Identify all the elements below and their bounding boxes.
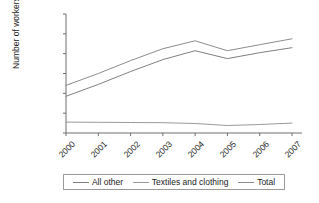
legend-line-swatch [73,182,89,183]
legend-label: Total [257,177,275,187]
plot-area [0,0,319,203]
axis-lines [66,14,302,133]
legend-item[interactable]: Textiles and clothing [133,177,229,187]
legend-label: All other [92,177,123,187]
legend-item[interactable]: All other [73,177,123,187]
legend-label: Textiles and clothing [152,177,229,187]
line-chart: Number of workers 010,00020,00030,00040,… [0,0,319,203]
series-line [66,122,292,125]
legend-line-swatch [238,182,254,183]
series-line [66,48,292,97]
legend-item[interactable]: Total [238,177,275,187]
series-line [66,39,292,86]
legend-line-swatch [133,182,149,183]
chart-legend: All otherTextiles and clothingTotal [63,174,285,190]
